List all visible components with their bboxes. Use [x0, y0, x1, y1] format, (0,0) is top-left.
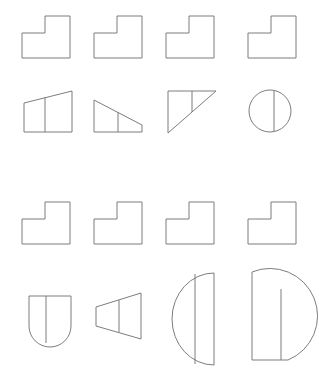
divided-circle: [249, 90, 291, 132]
l-block-r3c4: [248, 202, 296, 244]
l-block-r1c3: [166, 16, 214, 58]
row-solid-bottom: [22, 202, 296, 244]
l-block-r3c3: [166, 202, 214, 244]
figure-canvas: [0, 0, 319, 382]
row-solid-top: [22, 16, 296, 58]
l-block-r1c2: [94, 16, 142, 58]
l-block-r1c1: [22, 16, 70, 58]
l-block-r3c1: [22, 202, 70, 244]
slanted-top-trapezoid: [24, 91, 72, 132]
teardrop: [252, 268, 318, 360]
figure-sheet: [0, 0, 319, 382]
half-disc: [172, 273, 214, 365]
round-bottom-u-shape: [29, 296, 71, 347]
row-section-bottom: [29, 268, 318, 365]
l-block-r1c4: [248, 16, 296, 58]
row-section-top: [24, 90, 291, 133]
l-block-r3c2: [94, 202, 142, 244]
